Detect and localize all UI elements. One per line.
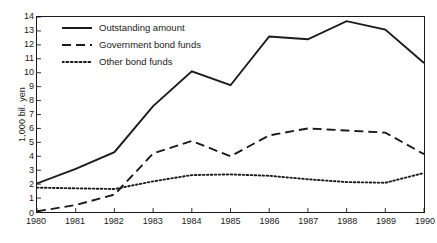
cut-off-caption-strip [22, 233, 322, 241]
x-tick-label: 1981 [65, 216, 85, 227]
y-tick-label: 13 [4, 26, 34, 35]
y-tick-label: 2 [4, 180, 34, 189]
x-tick-label: 1989 [376, 216, 396, 227]
chart-legend: Outstanding amountGovernment bond fundsO… [62, 20, 252, 71]
x-tick-label: 1990 [415, 216, 435, 227]
y-tick-label: 3 [4, 166, 34, 175]
series-line-dashed [37, 128, 424, 211]
y-tick-label: 14 [4, 12, 34, 21]
series-line-dotted [37, 173, 424, 189]
x-tick-label: 1985 [220, 216, 240, 227]
x-tick-label: 1983 [143, 216, 163, 227]
x-tick-label: 1980 [26, 216, 46, 227]
legend-label: Government bond funds [99, 39, 201, 51]
y-tick-label: 4 [4, 152, 34, 161]
y-tick-label: 8 [4, 96, 34, 105]
legend-label: Other bond funds [99, 56, 172, 68]
x-tick-label: 1984 [182, 216, 202, 227]
y-tick-label: 5 [4, 138, 34, 147]
y-tick-label: 6 [4, 124, 34, 133]
y-tick-label: 7 [4, 110, 34, 119]
x-tick-label: 1987 [298, 216, 318, 227]
y-tick-label: 10 [4, 68, 34, 77]
legend-key-dotted-icon [62, 56, 92, 68]
x-axis-tick-labels: 1980198119821983198419851986198719881989… [36, 216, 425, 230]
x-tick-label: 1988 [337, 216, 357, 227]
line-chart-figure: 1,000 bil. yen 01234567891011121314 1980… [0, 0, 437, 243]
legend-key-solid-icon [62, 22, 92, 34]
y-tick-label: 12 [4, 40, 34, 49]
legend-item[interactable]: Outstanding amount [62, 20, 252, 36]
y-axis-tick-labels: 01234567891011121314 [0, 0, 34, 243]
legend-label: Outstanding amount [99, 22, 185, 34]
legend-key-dashed-icon [62, 39, 92, 51]
x-tick-label: 1986 [259, 216, 279, 227]
y-tick-label: 11 [4, 54, 34, 63]
x-tick-label: 1982 [104, 216, 124, 227]
legend-item[interactable]: Government bond funds [62, 37, 252, 53]
y-tick-label: 9 [4, 82, 34, 91]
y-tick-label: 1 [4, 194, 34, 203]
legend-item[interactable]: Other bond funds [62, 54, 252, 70]
